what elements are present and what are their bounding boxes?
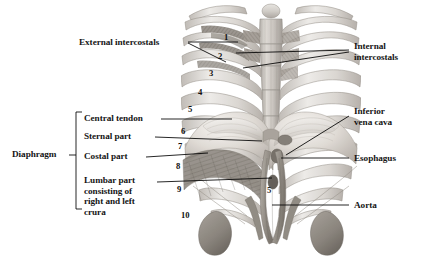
thoracic-cage-illustration bbox=[181, 0, 361, 265]
rib-number-2: 2 bbox=[218, 52, 222, 61]
label-sternal-part: Sternal part bbox=[84, 131, 131, 142]
rib-number-8: 8 bbox=[176, 162, 180, 171]
label-costal-part: Costal part bbox=[84, 151, 128, 162]
rib-number-5-inner: 5 bbox=[267, 186, 271, 195]
label-esophagus: Esophagus bbox=[354, 153, 396, 164]
rib-number-10: 10 bbox=[181, 211, 190, 220]
rib-number-6: 6 bbox=[181, 127, 185, 136]
rib-number-9: 9 bbox=[177, 185, 181, 194]
rib-number-5: 5 bbox=[188, 105, 192, 114]
label-aorta: Aorta bbox=[354, 200, 377, 211]
diaphragm-bracket bbox=[76, 112, 82, 209]
rib-number-4: 4 bbox=[198, 88, 202, 97]
rib-number-7: 7 bbox=[178, 142, 182, 151]
label-internal-intercostals: Internal intercostals bbox=[354, 41, 398, 62]
rib-number-3: 3 bbox=[209, 69, 213, 78]
label-external-intercostals: External intercostals bbox=[79, 37, 159, 48]
label-diaphragm: Diaphragm bbox=[12, 149, 56, 160]
label-inferior-vena-cava: Inferior vena cava bbox=[354, 106, 392, 127]
rib-number-1: 1 bbox=[224, 33, 228, 42]
anatomy-figure: External intercostals Diaphragm Central … bbox=[0, 0, 422, 265]
label-central-tendon: Central tendon bbox=[84, 113, 143, 124]
label-lumbar-part: Lumbar part consisting of right and left… bbox=[84, 175, 135, 217]
